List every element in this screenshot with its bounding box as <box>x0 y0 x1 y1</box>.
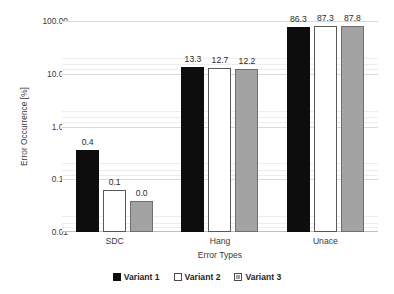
x-tick-label-unace: Unace <box>273 236 378 246</box>
legend-label: Variant 2 <box>185 272 221 282</box>
bar-value-label: 87.8 <box>344 13 361 23</box>
bar-slot: 87.8 <box>341 21 364 232</box>
y-tick-label: 10.00 <box>8 69 68 79</box>
bar-variant-3[interactable] <box>341 26 364 232</box>
bar-group-sdc: 0.4 0.1 0.0 <box>62 21 167 232</box>
legend-label: Variant 1 <box>124 272 160 282</box>
bar-slot: 12.7 <box>208 21 231 232</box>
bar-slot: 0.4 <box>76 21 99 232</box>
bar-chart-figure: Error Occurrence [%] 100.00 10.00 1.00 0… <box>0 0 394 294</box>
bar-slot: 87.3 <box>314 21 337 232</box>
bar-variant-2[interactable] <box>314 26 337 232</box>
bar-variant-2[interactable] <box>208 68 231 232</box>
bar-value-label: 12.2 <box>239 56 256 66</box>
legend-swatch-icon <box>174 273 182 281</box>
bar-value-label: 0.4 <box>82 137 94 147</box>
bar-slot: 12.2 <box>235 21 258 232</box>
bar-variant-3[interactable] <box>235 69 258 233</box>
x-axis-title: Error Types <box>62 250 378 260</box>
y-tick-label: 0.01 <box>8 227 68 237</box>
bar-slot: 0.0 <box>130 21 153 232</box>
x-axis-tick-labels: SDC Hang Unace <box>62 236 378 246</box>
bars-row: 13.3 12.7 12.2 <box>167 21 272 232</box>
bars-row: 86.3 87.3 87.8 <box>273 21 378 232</box>
bar-slot: 0.1 <box>103 21 126 232</box>
bar-slot: 86.3 <box>287 21 310 232</box>
legend-swatch-icon <box>113 273 121 281</box>
bar-value-label: 0.1 <box>109 177 121 187</box>
bar-value-label: 12.7 <box>212 55 229 65</box>
bar-variant-1[interactable] <box>181 67 204 233</box>
x-tick-label-hang: Hang <box>167 236 272 246</box>
plot-area: 0.4 0.1 0.0 13.3 <box>62 21 378 232</box>
bar-value-label: 87.3 <box>317 13 334 23</box>
chart-legend: Variant 1 Variant 2 Variant 3 <box>0 272 394 282</box>
bar-variant-1[interactable] <box>287 27 310 232</box>
bars-row: 0.4 0.1 0.0 <box>62 21 167 232</box>
bar-group-unace: 86.3 87.3 87.8 <box>273 21 378 232</box>
bar-variant-2[interactable] <box>103 190 126 232</box>
bar-variant-1[interactable] <box>76 150 99 232</box>
legend-item-variant-1[interactable]: Variant 1 <box>113 272 160 282</box>
bar-value-label: 13.3 <box>185 54 202 64</box>
y-tick-label: 100.00 <box>8 16 68 26</box>
legend-label: Variant 3 <box>245 272 281 282</box>
bar-value-label: 0.0 <box>136 188 148 198</box>
legend-item-variant-3[interactable]: Variant 3 <box>234 272 281 282</box>
bar-slot: 13.3 <box>181 21 204 232</box>
bar-variant-3[interactable] <box>130 201 153 232</box>
legend-swatch-icon <box>234 273 242 281</box>
bar-value-label: 86.3 <box>290 14 307 24</box>
legend-item-variant-2[interactable]: Variant 2 <box>174 272 221 282</box>
y-tick-label: 0.10 <box>8 174 68 184</box>
y-tick-label: 1.00 <box>8 122 68 132</box>
x-tick-label-sdc: SDC <box>62 236 167 246</box>
bar-group-hang: 13.3 12.7 12.2 <box>167 21 272 232</box>
bar-groups-layer: 0.4 0.1 0.0 13.3 <box>62 21 378 232</box>
